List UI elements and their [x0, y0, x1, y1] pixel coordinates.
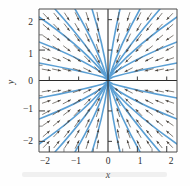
x-tick-label: −2: [40, 156, 50, 166]
y-axis-title: y: [5, 79, 16, 85]
x-tick-labels: −2 −1 0 1 2: [40, 156, 174, 166]
direction-field-figure: −2 −1 0 1 2 2 1 0 −1 −2 x y: [0, 0, 190, 186]
y-tick-label: −1: [23, 104, 33, 114]
y-tick-label: −2: [23, 136, 33, 146]
y-tick-label: 2: [28, 17, 33, 27]
x-tick-label: −1: [71, 156, 81, 166]
x-tick-label: 1: [138, 156, 143, 166]
y-tick-label: 1: [28, 49, 33, 59]
scan-artifact: [22, 172, 167, 177]
y-tick-labels: 2 1 0 −1 −2: [23, 17, 33, 146]
direction-field-canvas: −2 −1 0 1 2 2 1 0 −1 −2 x y: [0, 0, 190, 186]
y-tick-label: 0: [28, 76, 33, 86]
x-tick-label: 2: [169, 156, 174, 166]
x-tick-label: 0: [106, 156, 111, 166]
